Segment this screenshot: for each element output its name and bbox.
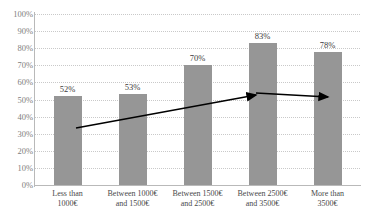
bar-value-label: 78%	[308, 41, 348, 50]
x-axis-category-label: Between 1500€and 2500€	[162, 189, 234, 208]
bar	[249, 43, 277, 185]
y-axis-tick-label: 60%	[1, 78, 33, 86]
x-axis-category-label-line: and 1500€	[97, 199, 169, 209]
x-axis-category-label: Between 2500€and 3500€	[227, 189, 299, 208]
bar-chart: 0%10%20%30%40%50%60%70%80%90%100% 52%53%…	[0, 0, 367, 219]
x-axis-category-label-line: Between 1000€	[97, 189, 169, 199]
y-axis-tick-labels: 0%10%20%30%40%50%60%70%80%90%100%	[0, 0, 33, 219]
bar-series: 52%53%70%83%78%	[35, 14, 360, 185]
bar	[119, 94, 147, 185]
bar-value-label: 52%	[48, 85, 88, 94]
y-axis-tick-label: 70%	[1, 61, 33, 69]
x-axis-category-label: Between 1000€and 1500€	[97, 189, 169, 208]
bar-value-label: 53%	[113, 83, 153, 92]
y-axis-tick-label: 40%	[1, 113, 33, 121]
x-axis-category-label-line: and 2500€	[162, 199, 234, 209]
bar	[184, 65, 212, 185]
x-axis-category-label-line: 3500€	[292, 199, 364, 209]
y-axis-tick-label: 0%	[1, 181, 33, 189]
x-axis-category-label: Less than1000€	[32, 189, 104, 208]
bar-value-label: 83%	[243, 32, 283, 41]
y-axis-tick-label: 80%	[1, 44, 33, 52]
x-axis-line	[34, 185, 361, 186]
x-axis-category-label-line: Less than	[32, 189, 104, 199]
x-axis-category-label-line: 1000€	[32, 199, 104, 209]
x-axis-category-label-line: Between 2500€	[227, 189, 299, 199]
bar-value-label: 70%	[178, 54, 218, 63]
x-axis-category-label: More than3500€	[292, 189, 364, 208]
y-axis-tick-label: 10%	[1, 164, 33, 172]
y-axis-tick-label: 50%	[1, 96, 33, 104]
bar	[314, 52, 342, 185]
y-axis-tick-label: 20%	[1, 147, 33, 155]
bar	[54, 96, 82, 185]
x-axis-category-label-line: and 3500€	[227, 199, 299, 209]
y-axis-tick-label: 30%	[1, 130, 33, 138]
y-axis-tick-label: 100%	[1, 10, 33, 18]
y-axis-tick-label: 90%	[1, 27, 33, 35]
x-axis-category-label-line: Between 1500€	[162, 189, 234, 199]
x-axis-category-label-line: More than	[292, 189, 364, 199]
